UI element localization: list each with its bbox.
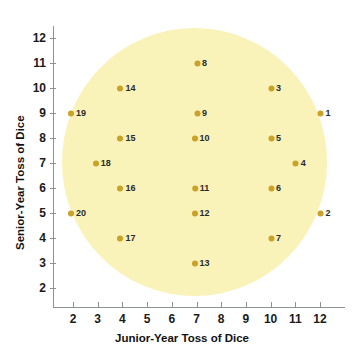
x-tick-mark: [147, 302, 148, 308]
y-tick-mark: [50, 188, 56, 189]
data-point[interactable]: 20: [68, 209, 86, 218]
data-point-marker: [268, 85, 274, 91]
data-point[interactable]: 10: [191, 134, 209, 143]
x-tick-label: 10: [264, 312, 277, 326]
y-tick-mark: [50, 213, 56, 214]
data-point-label: 1: [325, 109, 330, 118]
data-point-marker: [117, 235, 123, 241]
x-tick-mark: [246, 302, 247, 308]
data-point-label: 14: [125, 84, 135, 93]
x-tick-label: 8: [218, 312, 225, 326]
x-tick-mark: [320, 302, 321, 308]
data-point-label: 2: [325, 209, 330, 218]
data-point-label: 9: [202, 109, 207, 118]
data-point-marker: [117, 185, 123, 191]
data-point-label: 18: [101, 159, 111, 168]
data-point-marker: [191, 260, 197, 266]
data-point[interactable]: 14: [117, 84, 135, 93]
x-tick-mark: [122, 302, 123, 308]
x-axis-title: Junior-Year Toss of Dice: [22, 332, 342, 344]
data-point[interactable]: 16: [117, 184, 135, 193]
x-tick-label: 4: [119, 312, 126, 326]
data-point[interactable]: 2: [317, 209, 330, 218]
data-point-label: 7: [276, 234, 281, 243]
x-tick-mark: [295, 302, 296, 308]
data-point-label: 3: [276, 84, 281, 93]
y-axis-title: Senior-Year Toss of Dice: [14, 115, 26, 250]
data-point-label: 4: [301, 159, 306, 168]
data-point[interactable]: 7: [268, 234, 281, 243]
data-point-label: 17: [125, 234, 135, 243]
data-point-label: 13: [199, 259, 209, 268]
x-tick-mark: [221, 302, 222, 308]
data-point-marker: [93, 160, 99, 166]
data-point-label: 15: [125, 134, 135, 143]
data-point-marker: [117, 135, 123, 141]
x-tick-label: 12: [313, 312, 326, 326]
y-tick-mark: [50, 63, 56, 64]
data-point-label: 16: [125, 184, 135, 193]
data-point-marker: [191, 210, 197, 216]
data-point-marker: [268, 185, 274, 191]
data-point[interactable]: 15: [117, 134, 135, 143]
y-tick-mark: [50, 138, 56, 139]
y-tick-mark: [50, 38, 56, 39]
x-tick-label: 6: [168, 312, 175, 326]
data-point[interactable]: 6: [268, 184, 281, 193]
x-tick-mark: [98, 302, 99, 308]
y-tick-label: 3: [22, 256, 46, 270]
data-point-marker: [191, 135, 197, 141]
y-tick-mark: [50, 88, 56, 89]
data-point-marker: [293, 160, 299, 166]
x-tick-label: 9: [243, 312, 250, 326]
data-point-label: 10: [199, 134, 209, 143]
data-point-marker: [117, 85, 123, 91]
x-tick-label: 3: [94, 312, 101, 326]
y-tick-label: 10: [22, 81, 46, 95]
y-tick-mark: [50, 238, 56, 239]
data-point[interactable]: 17: [117, 234, 135, 243]
data-point-label: 19: [76, 109, 86, 118]
data-point[interactable]: 12: [191, 209, 209, 218]
y-tick-label: 2: [22, 281, 46, 295]
y-tick-label: 11: [22, 56, 46, 70]
plot-area: 23456789101112 23456789101112 1234567891…: [0, 0, 355, 354]
data-point[interactable]: 4: [293, 159, 306, 168]
data-point-marker: [268, 135, 274, 141]
y-axis-line: [53, 26, 54, 308]
y-tick-mark: [50, 288, 56, 289]
data-point-label: 5: [276, 134, 281, 143]
data-point[interactable]: 1: [317, 109, 330, 118]
data-point-marker: [68, 110, 74, 116]
x-tick-label: 7: [193, 312, 200, 326]
x-tick-mark: [271, 302, 272, 308]
data-point[interactable]: 3: [268, 84, 281, 93]
y-tick-mark: [50, 113, 56, 114]
y-tick-label: 12: [22, 31, 46, 45]
data-point-marker: [268, 235, 274, 241]
y-tick-mark: [50, 263, 56, 264]
y-tick-mark: [50, 163, 56, 164]
data-point[interactable]: 18: [93, 159, 111, 168]
data-point[interactable]: 19: [68, 109, 86, 118]
x-tick-mark: [172, 302, 173, 308]
scatter-plot-figure: 23456789101112 23456789101112 1234567891…: [0, 0, 355, 354]
data-point[interactable]: 13: [191, 259, 209, 268]
data-point-label: 8: [202, 59, 207, 68]
data-point[interactable]: 8: [194, 59, 207, 68]
data-point-label: 20: [76, 209, 86, 218]
data-point[interactable]: 9: [194, 109, 207, 118]
data-point-marker: [194, 60, 200, 66]
data-point-marker: [317, 210, 323, 216]
data-point[interactable]: 11: [192, 184, 210, 193]
data-point-label: 12: [199, 209, 209, 218]
data-point-label: 11: [200, 184, 210, 193]
data-point-marker: [194, 110, 200, 116]
x-tick-label: 2: [70, 312, 77, 326]
data-point-label: 6: [276, 184, 281, 193]
data-point-marker: [192, 185, 198, 191]
x-tick-mark: [197, 302, 198, 308]
data-point[interactable]: 5: [268, 134, 281, 143]
x-tick-mark: [73, 302, 74, 308]
data-point-marker: [317, 110, 323, 116]
